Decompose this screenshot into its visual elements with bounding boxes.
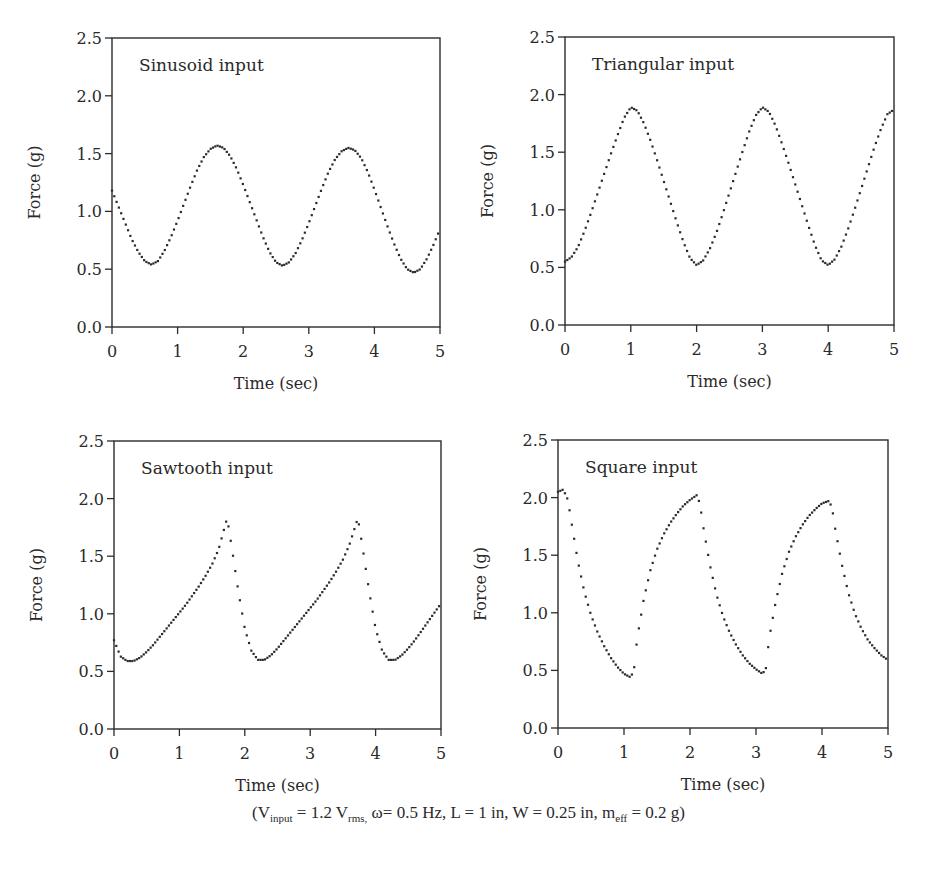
x-tick-label: 5 xyxy=(435,342,445,361)
chart-title: Triangular input xyxy=(592,54,734,74)
x-tick-label: 4 xyxy=(371,744,381,763)
x-axis-label: Time (sec) xyxy=(681,775,766,794)
plot-frame xyxy=(565,37,894,325)
x-tick-label: 2 xyxy=(240,744,250,763)
x-tick-label: 2 xyxy=(238,342,248,361)
x-tick-label: 3 xyxy=(751,743,761,762)
x-tick-label: 0 xyxy=(560,340,570,359)
x-tick-label: 5 xyxy=(889,340,899,359)
x-axis-label: Time (sec) xyxy=(235,776,320,795)
y-axis-label: Force (g) xyxy=(478,144,497,218)
chart-title: Square input xyxy=(585,457,697,477)
x-tick-label: 3 xyxy=(304,342,314,361)
caption-part: ω= 0.5 Hz, L = 1 in, W = 0.25 in, meff xyxy=(367,803,627,822)
y-axis-label: Force (g) xyxy=(25,146,44,220)
y-tick-label: 0.0 xyxy=(523,719,548,738)
y-tick-label: 1.0 xyxy=(77,202,102,221)
x-tick-label: 0 xyxy=(553,743,563,762)
x-tick-label: 3 xyxy=(757,340,767,359)
chart-title: Sinusoid input xyxy=(139,55,264,75)
x-tick-label: 5 xyxy=(436,744,446,763)
chart-title: Sawtooth input xyxy=(141,458,273,478)
y-tick-label: 1.5 xyxy=(530,143,555,162)
y-tick-label: 1.0 xyxy=(530,201,555,220)
data-series xyxy=(111,145,439,274)
y-axis-label: Force (g) xyxy=(471,547,490,621)
chart-panel-square: 0.00.51.01.52.02.5012345Time (sec)Force … xyxy=(471,431,893,794)
x-tick-label: 1 xyxy=(626,340,636,359)
chart-panel-sinusoid: 0.00.51.01.52.02.5012345Time (sec)Force … xyxy=(25,29,445,393)
x-tick-label: 5 xyxy=(883,743,893,762)
y-tick-label: 1.0 xyxy=(79,605,104,624)
x-tick-label: 3 xyxy=(305,744,315,763)
y-tick-label: 2.5 xyxy=(77,29,102,48)
caption-part: = 1.2 Vrms, xyxy=(293,803,368,822)
y-tick-label: 2.0 xyxy=(530,86,555,105)
y-tick-label: 0.5 xyxy=(79,662,104,681)
y-tick-label: 2.5 xyxy=(79,432,104,451)
y-tick-label: 2.0 xyxy=(79,490,104,509)
y-tick-label: 0.5 xyxy=(523,661,548,680)
charts-canvas: 0.00.51.01.52.02.5012345Time (sec)Force … xyxy=(0,0,937,873)
chart-panel-triangular: 0.00.51.01.52.02.5012345Time (sec)Force … xyxy=(478,28,899,391)
y-tick-label: 0.5 xyxy=(77,260,102,279)
data-series xyxy=(113,521,440,663)
y-tick-label: 1.0 xyxy=(523,604,548,623)
y-tick-label: 1.5 xyxy=(523,546,548,565)
y-tick-label: 2.0 xyxy=(523,489,548,508)
caption-part: (Vinput xyxy=(252,803,293,822)
x-tick-label: 4 xyxy=(823,340,833,359)
x-tick-label: 4 xyxy=(369,342,379,361)
x-tick-label: 2 xyxy=(685,743,695,762)
figure: 0.00.51.01.52.02.5012345Time (sec)Force … xyxy=(0,0,937,873)
y-tick-label: 2.0 xyxy=(77,87,102,106)
x-tick-label: 4 xyxy=(817,743,827,762)
y-axis-label: Force (g) xyxy=(27,548,46,622)
data-series xyxy=(564,107,893,266)
figure-caption: (Vinput = 1.2 Vrms, ω= 0.5 Hz, L = 1 in,… xyxy=(0,803,937,824)
y-tick-label: 1.5 xyxy=(77,145,102,164)
y-tick-label: 2.5 xyxy=(530,28,555,47)
chart-panel-sawtooth: 0.00.51.01.52.02.5012345Time (sec)Force … xyxy=(27,432,446,795)
x-tick-label: 2 xyxy=(692,340,702,359)
x-tick-label: 0 xyxy=(107,342,117,361)
y-tick-label: 0.0 xyxy=(530,316,555,335)
y-tick-label: 2.5 xyxy=(523,431,548,450)
x-axis-label: Time (sec) xyxy=(234,374,319,393)
x-tick-label: 1 xyxy=(173,342,183,361)
y-tick-label: 0.0 xyxy=(79,720,104,739)
data-series xyxy=(557,489,887,678)
plot-frame xyxy=(114,441,441,729)
y-tick-label: 0.0 xyxy=(77,318,102,337)
plot-frame xyxy=(558,440,888,728)
x-tick-label: 1 xyxy=(619,743,629,762)
caption-part: = 0.2 g) xyxy=(627,803,685,822)
plot-frame xyxy=(112,38,440,327)
y-tick-label: 0.5 xyxy=(530,258,555,277)
x-axis-label: Time (sec) xyxy=(687,372,772,391)
x-tick-label: 0 xyxy=(109,744,119,763)
x-tick-label: 1 xyxy=(174,744,184,763)
y-tick-label: 1.5 xyxy=(79,547,104,566)
